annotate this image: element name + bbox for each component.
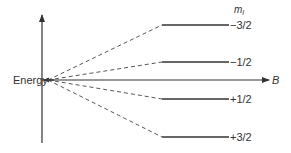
dashed-split-line [48,62,162,80]
column-header-subscript: I [242,9,244,16]
energy-axis-label: Energy [13,74,48,86]
level-label: −1/2 [230,56,252,68]
dashed-split-line [48,80,162,137]
level-label: −3/2 [230,19,252,31]
zeeman-splitting-diagram: Energy B mI −3/2 −1/2 +1/2 +3/2 [0,0,291,153]
column-header-m: m [234,4,242,15]
level-label: +3/2 [230,131,252,143]
level-label: +1/2 [230,93,252,105]
dashed-split-line [48,80,162,99]
dashed-split-line [48,25,162,80]
column-header: mI [234,4,244,16]
b-axis-label: B [272,74,279,86]
